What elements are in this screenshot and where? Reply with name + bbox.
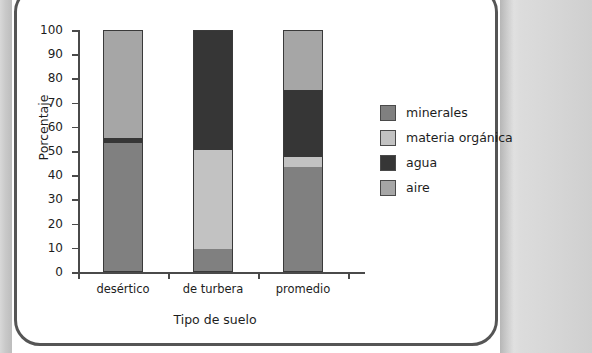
legend-item-aire: aire	[380, 175, 530, 200]
y-axis-tick: 10	[72, 248, 78, 250]
legend-label: minerales	[406, 105, 468, 120]
y-axis-tick-label: 40	[48, 168, 63, 182]
y-axis-tick: 40	[72, 175, 78, 177]
y-axis-tick-label: 30	[48, 192, 63, 206]
y-axis-tick-label: 80	[48, 71, 63, 85]
x-axis-category-label: de turbera	[183, 282, 244, 296]
legend-label: materia orgánica	[406, 130, 513, 145]
legend-swatch	[380, 180, 396, 196]
chart-legend: mineralesmateria orgánicaaguaaire	[380, 100, 530, 200]
screenshot-root: Porcentaje Tipo de suelo 010203040506070…	[0, 0, 592, 353]
bar-segment-agua	[284, 90, 322, 158]
x-axis-category-label: desértico	[96, 282, 149, 296]
y-axis-tick-label: 20	[48, 217, 63, 231]
x-axis-line	[73, 272, 365, 274]
bar-promedio	[283, 30, 323, 272]
x-axis-tick	[78, 272, 80, 279]
plot-area: 0102030405060708090100desérticode turber…	[78, 30, 348, 272]
y-axis-tick-label: 10	[48, 241, 63, 255]
y-axis-tick-label: 60	[48, 120, 63, 134]
bar-segment-minerales	[104, 143, 142, 271]
bar-segment-minerales	[284, 167, 322, 271]
legend-item-materia-orgánica: materia orgánica	[380, 125, 530, 150]
y-axis-tick: 60	[72, 127, 78, 129]
bar-segment-agua	[104, 138, 142, 143]
y-axis-tick-label: 50	[48, 144, 63, 158]
y-axis-tick: 90	[72, 54, 78, 56]
stacked-bar-chart: Porcentaje Tipo de suelo 010203040506070…	[14, 0, 498, 353]
bar-segment-materia-orgánica	[284, 157, 322, 167]
x-axis-title: Tipo de suelo	[70, 312, 360, 327]
y-axis-line	[78, 30, 80, 272]
bar-desértico	[103, 30, 143, 272]
bar-segment-minerales	[194, 249, 232, 271]
bar-segment-materia-orgánica	[194, 150, 232, 249]
legend-swatch	[380, 155, 396, 171]
x-axis-category-label: promedio	[276, 282, 331, 296]
legend-swatch	[380, 105, 396, 121]
x-axis-tick	[168, 272, 170, 279]
bar-segment-aire	[104, 30, 142, 138]
x-axis-tick	[348, 272, 350, 279]
bar-de-turbera	[193, 30, 233, 272]
legend-item-minerales: minerales	[380, 100, 530, 125]
y-axis-tick-label: 0	[55, 265, 63, 279]
y-axis-tick: 20	[72, 224, 78, 226]
y-axis-tick-label: 90	[48, 47, 63, 61]
bar-segment-aire	[284, 30, 322, 90]
legend-label: agua	[406, 155, 437, 170]
x-axis-tick	[258, 272, 260, 279]
bar-segment-agua	[194, 30, 232, 150]
y-axis-tick-label: 70	[48, 96, 63, 110]
legend-swatch	[380, 130, 396, 146]
y-axis-tick-label: 100	[40, 23, 63, 37]
y-axis-tick: 100	[72, 30, 78, 32]
y-axis-tick: 70	[72, 103, 78, 105]
y-axis-tick: 30	[72, 199, 78, 201]
legend-item-agua: agua	[380, 150, 530, 175]
y-axis-tick: 80	[72, 78, 78, 80]
page-left-edge	[0, 0, 12, 353]
y-axis-tick: 50	[72, 151, 78, 153]
legend-label: aire	[406, 180, 430, 195]
